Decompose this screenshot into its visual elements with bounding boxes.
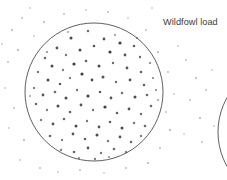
pellet-strike-dot bbox=[211, 69, 213, 71]
pellet-strike-dot bbox=[119, 136, 122, 139]
pellet-strike-dot bbox=[130, 141, 133, 144]
pellet-strike-dot bbox=[98, 65, 101, 68]
pellet-strike-dot bbox=[56, 47, 59, 50]
pellet-strike-dot bbox=[63, 118, 66, 121]
pellet-strike-dot bbox=[205, 89, 207, 91]
pellet-strike-dot bbox=[72, 62, 75, 65]
pellet-strike-dot bbox=[199, 117, 201, 119]
pellet-strike-dot bbox=[79, 49, 82, 52]
pellet-strike-dot bbox=[84, 138, 87, 141]
pellet-strike-dot bbox=[157, 99, 159, 101]
pellet-strike-dot bbox=[21, 17, 23, 19]
pellet-strike-dot bbox=[86, 120, 88, 122]
pellet-strike-dot bbox=[85, 60, 88, 63]
pellet-strike-dot bbox=[60, 149, 62, 151]
pellet-strike-dot bbox=[167, 71, 169, 73]
pellet-strike-dot bbox=[121, 127, 124, 130]
pellet-strike-dot bbox=[125, 167, 127, 169]
pellet-strike-dot bbox=[39, 167, 41, 169]
pellet-strike-dot bbox=[183, 133, 185, 135]
pellet-strike-dot bbox=[177, 45, 179, 47]
pellet-strike-dot bbox=[169, 129, 171, 131]
pellet-strike-dot bbox=[11, 29, 13, 31]
pellet-strike-dot bbox=[98, 126, 101, 129]
pellet-strike-dot bbox=[102, 76, 105, 79]
pellet-strike-dot bbox=[52, 123, 55, 126]
pellet-strike-dot bbox=[150, 105, 153, 108]
pellet-strike-dot bbox=[86, 94, 89, 97]
pellet-strike-dot bbox=[93, 45, 96, 48]
pellet-strike-dot bbox=[100, 152, 102, 154]
pellet-strike-dot bbox=[51, 65, 54, 68]
pellet-strike-dot bbox=[94, 158, 96, 160]
pellet-strike-dot bbox=[136, 37, 138, 39]
pellet-strike-dot bbox=[13, 107, 15, 109]
pellet-strike-dot bbox=[87, 30, 89, 32]
pellet-strike-dot bbox=[85, 9, 87, 11]
shotgun-pattern-figure: Wildfowl load bbox=[0, 0, 227, 180]
pellet-strike-dot bbox=[37, 71, 39, 73]
pellet-strike-dot bbox=[145, 29, 147, 31]
pellet-strike-dot bbox=[118, 41, 121, 44]
pellet-strike-dot bbox=[140, 113, 142, 115]
pellet-strike-dot bbox=[129, 79, 132, 82]
pellet-strike-dot bbox=[149, 62, 151, 64]
pellet-strike-dot bbox=[35, 103, 38, 106]
pellet-strike-dot bbox=[4, 87, 6, 89]
pellet-strike-dot bbox=[7, 61, 9, 63]
pellet-strike-dot bbox=[69, 77, 71, 79]
pellet-strike-dot bbox=[76, 89, 78, 91]
pellet-strike-dot bbox=[80, 104, 83, 107]
pellet-strike-dot bbox=[185, 59, 187, 61]
pellet-strike-dot bbox=[61, 139, 63, 141]
pellet-strike-dot bbox=[108, 156, 110, 158]
pellet-strike-dot bbox=[113, 148, 116, 151]
pellet-strike-dot bbox=[139, 56, 141, 58]
pellet-strike-dot bbox=[107, 140, 109, 142]
pellet-strike-dot bbox=[112, 62, 114, 64]
pellet-strike-dot bbox=[62, 69, 64, 71]
pellet-strike-dot bbox=[91, 79, 94, 82]
pellet-strike-dot bbox=[87, 147, 90, 150]
pellet-strike-dot bbox=[92, 109, 94, 111]
pellet-strike-dot bbox=[79, 169, 81, 171]
pellet-strike-dot bbox=[144, 125, 147, 128]
pellet-strike-dot bbox=[1, 43, 3, 45]
pellet-strike-dot bbox=[63, 13, 65, 15]
pellet-strike-dot bbox=[124, 54, 127, 57]
pellet-strike-dot bbox=[114, 34, 116, 36]
pellet-strike-dot bbox=[143, 84, 146, 87]
pattern-plate-canvas bbox=[0, 0, 227, 180]
pellet-strike-dot bbox=[173, 93, 175, 95]
pellet-strike-dot bbox=[115, 81, 117, 83]
pellet-strike-dot bbox=[110, 97, 113, 100]
pellet-strike-dot bbox=[33, 87, 35, 89]
pellet-strike-dot bbox=[116, 112, 119, 115]
pellet-strike-dot bbox=[59, 83, 62, 86]
pellet-strike-dot bbox=[19, 159, 21, 161]
pellet-strike-dot bbox=[189, 99, 191, 101]
pellet-strike-dot bbox=[140, 71, 143, 74]
pellet-strike-dot bbox=[65, 97, 68, 100]
pellet-strike-dot bbox=[107, 11, 109, 13]
pellet-strike-dot bbox=[126, 67, 129, 70]
pellet-strike-dot bbox=[151, 7, 153, 9]
pellet-strike-dot bbox=[134, 96, 137, 99]
pellet-strike-dot bbox=[57, 105, 60, 108]
pellet-strike-dot bbox=[99, 91, 102, 94]
pellet-strike-dot bbox=[125, 151, 127, 153]
pellet-strike-dot bbox=[128, 108, 131, 111]
pellet-strike-dot bbox=[46, 51, 48, 53]
pellet-strike-dot bbox=[157, 51, 159, 53]
pellet-strike-dot bbox=[57, 171, 59, 173]
pellet-strike-dot bbox=[72, 133, 75, 136]
pellet-strike-dot bbox=[147, 162, 149, 164]
pellet-strike-dot bbox=[80, 72, 83, 75]
pellet-strike-dot bbox=[70, 37, 73, 40]
pellet-strike-dot bbox=[159, 147, 161, 149]
pellet-strike-dot bbox=[165, 111, 167, 113]
pellet-strike-dot bbox=[127, 17, 129, 19]
pellet-strike-dot bbox=[8, 127, 10, 129]
pellet-strike-dot bbox=[75, 125, 78, 128]
pellet-strike-dot bbox=[42, 94, 45, 97]
